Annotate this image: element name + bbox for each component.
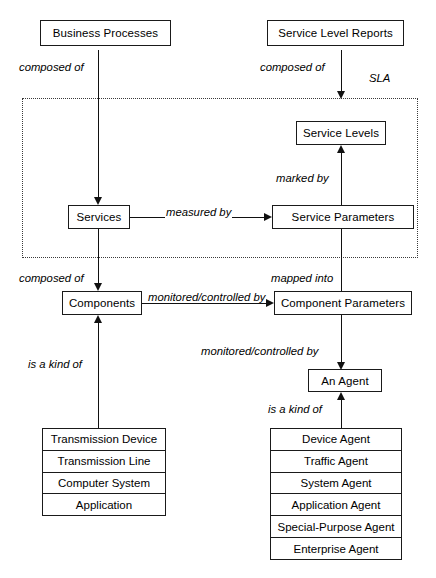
edge-line-component-parameters-to-an-agent bbox=[341, 315, 342, 363]
list-item[interactable]: Computer System bbox=[43, 473, 165, 495]
list-item[interactable]: System Agent bbox=[271, 473, 401, 495]
list-item[interactable]: Traffic Agent bbox=[271, 451, 401, 473]
node-service-parameters-label: Service Parameters bbox=[292, 211, 395, 223]
node-an-agent-label: An Agent bbox=[321, 375, 368, 387]
edge-line-service-parameters-to-component-parameters bbox=[341, 228, 342, 291]
edge-line-component-kinds-to-components bbox=[98, 322, 99, 428]
agent-kind-label: Application Agent bbox=[292, 499, 381, 511]
agent-kind-label: Device Agent bbox=[302, 433, 370, 445]
arrowhead-components-to-component-parameters bbox=[266, 299, 274, 307]
arrowhead-component-parameters-to-an-agent bbox=[337, 362, 345, 370]
edge-line-agent-kinds-to-an-agent bbox=[341, 399, 342, 428]
list-item[interactable]: Device Agent bbox=[271, 429, 401, 451]
component-kind-label: Application bbox=[76, 499, 132, 511]
node-an-agent[interactable]: An Agent bbox=[308, 369, 382, 392]
list-item[interactable]: Special-Purpose Agent bbox=[271, 516, 401, 538]
arrowhead-services-to-components bbox=[94, 283, 102, 291]
region-label-sla: SLA bbox=[368, 72, 391, 84]
agent-kind-label: Special-Purpose Agent bbox=[278, 521, 395, 533]
component-kind-label: Transmission Line bbox=[58, 455, 151, 467]
list-item[interactable]: Application bbox=[43, 494, 165, 515]
node-service-levels[interactable]: Service Levels bbox=[296, 121, 386, 145]
list-item[interactable]: Transmission Device bbox=[43, 429, 165, 451]
node-business-processes[interactable]: Business Processes bbox=[40, 20, 171, 46]
edge-line-components-to-component-parameters bbox=[142, 303, 266, 304]
arrowhead-services-to-service-parameters bbox=[264, 213, 272, 221]
node-service-level-reports[interactable]: Service Level Reports bbox=[267, 20, 404, 46]
edge-label-monitored-controlled-by-component-parameters: monitored/controlled by bbox=[200, 345, 319, 357]
edge-label-is-a-kind-of-agents: is a kind of bbox=[267, 403, 323, 415]
node-service-level-reports-label: Service Level Reports bbox=[278, 27, 393, 39]
edge-line-service-level-reports-to-sla bbox=[341, 50, 342, 92]
node-component-parameters-label: Component Parameters bbox=[281, 297, 405, 309]
list-item[interactable]: Transmission Line bbox=[43, 451, 165, 473]
edge-label-composed-of-services: composed of bbox=[18, 272, 85, 284]
edge-label-composed-of-business-processes: composed of bbox=[18, 61, 85, 73]
node-components-label: Components bbox=[69, 297, 135, 309]
component-kind-label: Computer System bbox=[58, 477, 150, 489]
component-kind-label: Transmission Device bbox=[51, 433, 157, 445]
list-item[interactable]: Enterprise Agent bbox=[271, 538, 401, 559]
node-services-label: Services bbox=[77, 211, 122, 223]
edge-label-marked-by: marked by bbox=[275, 172, 330, 184]
edge-label-monitored-controlled-by-components: monitored/controlled by bbox=[147, 291, 266, 303]
node-services[interactable]: Services bbox=[68, 205, 130, 229]
list-item[interactable]: Application Agent bbox=[271, 494, 401, 516]
agent-kind-label: Enterprise Agent bbox=[293, 543, 378, 555]
agent-kinds-stack[interactable]: Device Agent Traffic Agent System Agent … bbox=[270, 428, 402, 560]
node-service-levels-label: Service Levels bbox=[303, 127, 379, 139]
edge-line-service-parameters-to-service-levels bbox=[341, 152, 342, 206]
agent-kind-label: Traffic Agent bbox=[304, 455, 368, 467]
edge-label-mapped-into: mapped into bbox=[270, 272, 334, 284]
node-service-parameters[interactable]: Service Parameters bbox=[272, 205, 414, 229]
arrowhead-business-processes-to-services bbox=[94, 197, 102, 205]
arrowhead-component-kinds-to-components bbox=[94, 315, 102, 323]
arrowhead-agent-kinds-to-an-agent bbox=[337, 392, 345, 400]
arrowhead-service-level-reports-to-sla bbox=[337, 91, 345, 99]
node-component-parameters[interactable]: Component Parameters bbox=[274, 291, 412, 315]
node-components[interactable]: Components bbox=[62, 291, 142, 315]
edge-line-services-to-components bbox=[98, 228, 99, 284]
node-business-processes-label: Business Processes bbox=[53, 27, 158, 39]
edge-label-composed-of-service-level-reports: composed of bbox=[259, 61, 326, 73]
diagram-canvas: Business Processes Service Level Reports… bbox=[0, 0, 436, 578]
edge-line-business-processes-to-services bbox=[98, 50, 99, 198]
component-kinds-stack[interactable]: Transmission Device Transmission Line Co… bbox=[42, 428, 166, 516]
arrowhead-service-parameters-to-service-levels bbox=[337, 145, 345, 153]
edge-label-measured-by: measured by bbox=[165, 206, 232, 218]
edge-label-is-a-kind-of-components: is a kind of bbox=[27, 358, 83, 370]
agent-kind-label: System Agent bbox=[301, 477, 372, 489]
